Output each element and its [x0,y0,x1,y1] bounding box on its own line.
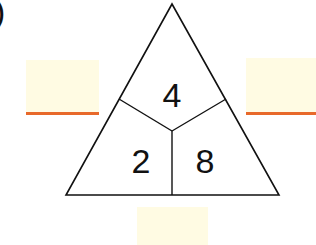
fact-triangle: 4 2 8 [0,0,316,245]
bottom-left-number: 2 [132,142,151,180]
fact-triangle-exercise: ) 4 2 8 [0,0,316,245]
bottom-right-number: 8 [196,142,215,180]
top-number: 4 [163,76,182,114]
